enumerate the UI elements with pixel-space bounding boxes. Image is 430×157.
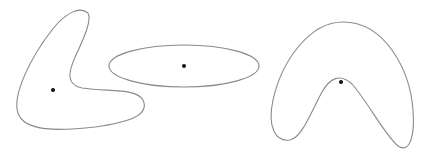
- arch-shape-group: [271, 22, 413, 148]
- arch-shape-outline: [271, 22, 413, 148]
- shapes-diagram: [0, 0, 430, 157]
- ellipse-shape-group: [109, 45, 259, 87]
- arch-centroid-dot: [339, 80, 343, 84]
- boomerang-centroid-dot: [51, 88, 55, 92]
- boomerang-shape-group: [17, 10, 145, 129]
- ellipse-centroid-dot: [182, 64, 186, 68]
- boomerang-shape-outline: [17, 10, 145, 129]
